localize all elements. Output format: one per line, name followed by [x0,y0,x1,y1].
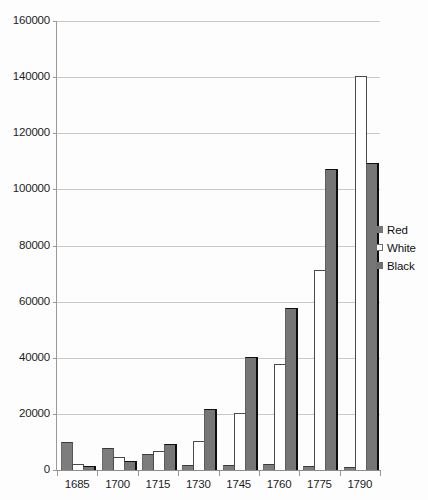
bar-black-1685 [83,466,96,470]
x-axis-tick [178,471,179,476]
bar-group [259,21,299,470]
x-axis-tick [380,471,381,476]
x-axis-tick-label: 1775 [299,478,339,490]
bar-group [57,21,97,470]
legend-swatch-red-icon [376,226,383,233]
y-axis-tick-label: 60000 [19,296,50,307]
bar-group [97,21,137,470]
y-axis-tick-label: 40000 [19,352,50,363]
y-axis-labels: 0200004000060000800001000001200001400001… [0,0,54,500]
bar-group [299,21,339,470]
y-axis-tick-label: 100000 [13,183,50,194]
y-axis-tick-label: 80000 [19,240,50,251]
x-axis-tick-label: 1685 [57,478,97,490]
x-axis-tick [299,471,300,476]
x-axis-tick-label: 1700 [97,478,137,490]
x-axis-tick-label: 1730 [178,478,218,490]
x-axis-tick [340,471,341,476]
y-axis-tick-label: 120000 [13,127,50,138]
legend-item-black[interactable]: Black [376,257,428,274]
x-axis-tick [138,471,139,476]
x-axis-tick [57,471,58,476]
bar-group [219,21,259,470]
plot-area [57,21,380,470]
x-axis-labels: 16851700171517301745176017751790 [57,478,380,498]
bar-group [340,21,380,470]
y-axis-tick-label: 20000 [19,408,50,419]
legend-swatch-black-icon [376,262,383,269]
bar-black-1700 [124,461,137,470]
y-axis-tick-label: 140000 [13,71,50,82]
bar-black-1730 [204,409,217,470]
chart-legend: RedWhiteBlack [376,221,428,275]
y-axis-tick-label: 0 [44,464,50,475]
bar-black-1775 [325,169,338,470]
bar-group [178,21,218,470]
bar-black-1715 [164,444,177,470]
x-axis-tick-label: 1790 [340,478,380,490]
x-axis-tick [219,471,220,476]
legend-label: Red [387,224,408,236]
x-axis-tick-label: 1760 [259,478,299,490]
x-axis-tick [259,471,260,476]
legend-label: Black [387,260,415,272]
legend-swatch-white-icon [376,244,383,251]
legend-item-red[interactable]: Red [376,221,428,238]
bar-black-1760 [285,308,298,470]
x-axis-tick-label: 1715 [138,478,178,490]
y-axis-tick-label: 160000 [13,15,50,26]
x-axis-tick-label: 1745 [219,478,259,490]
legend-label: White [387,242,416,254]
bar-chart: 0200004000060000800001000001200001400001… [0,0,428,500]
bar-black-1790 [366,163,379,470]
x-axis-tick [97,471,98,476]
legend-item-white[interactable]: White [376,239,428,256]
bar-group [138,21,178,470]
bar-black-1745 [245,357,258,470]
